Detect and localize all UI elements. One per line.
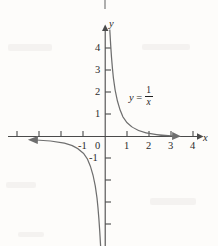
equation-equals: = — [136, 92, 142, 103]
y-tick-label-neg1: -1 — [89, 153, 98, 164]
plot-canvas — [0, 0, 218, 246]
x-tick-label-neg1: -1 — [78, 141, 87, 152]
x-axis-label: x — [203, 133, 208, 144]
fraction-numerator: 1 — [146, 86, 151, 96]
equation-annotation: y = 1 x — [129, 86, 153, 108]
y-axis — [105, 30, 111, 246]
x-tick-label-0: 0 — [95, 141, 100, 152]
x-tick-label-1: 1 — [124, 141, 129, 152]
x-tick-label-3: 3 — [168, 141, 173, 152]
fraction-denominator: x — [146, 98, 150, 108]
x-tick-label-4: 4 — [190, 141, 195, 152]
x-tick-label-2: 2 — [146, 141, 151, 152]
y-tick-label-1: 1 — [95, 109, 100, 120]
equation-fraction: 1 x — [145, 86, 153, 108]
y-tick-label-2: 2 — [95, 87, 100, 98]
curve-right-branch — [110, 30, 174, 136]
y-tick-label-3: 3 — [95, 65, 100, 76]
equation-lhs: y — [129, 92, 134, 103]
graph-figure: y x 4 3 2 1 -1 -1 0 1 2 3 4 y = 1 x — [0, 0, 218, 246]
y-axis-label: y — [109, 19, 114, 30]
y-tick-label-4: 4 — [95, 43, 100, 54]
